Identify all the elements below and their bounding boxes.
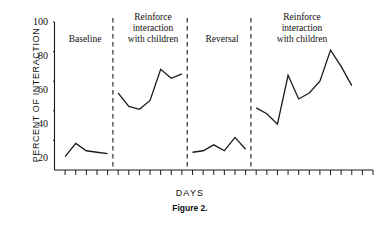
phase-label-baseline: Baseline [57,34,113,45]
y-tick-label-20: 20 [22,153,48,163]
phase-label-reinforce-2: Reinforce interaction with children [265,12,339,45]
x-axis-ticks [65,170,373,175]
phase-series-1 [65,143,107,156]
phase-series-3 [193,137,246,152]
y-tick-label-40: 40 [22,119,48,129]
phase-label-reversal: Reversal [194,34,250,45]
figure-container: PERCENT OF INTERACTION 100 80 60 40 20 B… [0,0,380,225]
figure-caption: Figure 2. [0,203,380,213]
y-tick-label-80: 80 [22,51,48,61]
phase-series-4 [256,50,352,124]
x-axis-title: DAYS [0,188,380,198]
phase-label-reinforce-1: Reinforce interaction with children [116,12,190,45]
phase-series-2 [118,69,182,109]
data-series-lines [65,50,352,157]
y-tick-label-100: 100 [22,17,48,27]
y-tick-label-60: 60 [22,85,48,95]
